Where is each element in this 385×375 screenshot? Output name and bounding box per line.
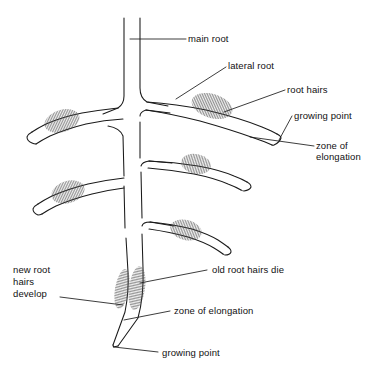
root-drawing bbox=[0, 0, 385, 375]
label-zone-of-elongation-bottom: zone of elongation bbox=[174, 305, 253, 317]
leader-growing-point-top bbox=[279, 116, 292, 140]
label-new-root-hairs-line2: hairs bbox=[13, 276, 34, 288]
label-root-hairs: root hairs bbox=[287, 84, 328, 96]
label-zone-of-elongation-top-line2: elongation bbox=[316, 151, 361, 163]
root-diagram: main root lateral root root hairs growin… bbox=[0, 0, 385, 375]
label-new-root-hairs-line3: develop bbox=[13, 288, 47, 300]
leader-root-hairs bbox=[224, 90, 285, 112]
label-zone-of-elongation-top-line1: zone of bbox=[316, 140, 348, 152]
leader-zone-elongation-top bbox=[250, 137, 314, 146]
label-new-root-hairs-line1: new root bbox=[13, 264, 50, 276]
leader-old-root-hairs bbox=[140, 270, 207, 283]
root-hair-clusters bbox=[41, 88, 235, 311]
leader-new-root-hairs bbox=[60, 297, 123, 305]
label-old-root-hairs-die: old root hairs die bbox=[212, 264, 284, 276]
leader-zone-elongation-bottom bbox=[124, 311, 170, 320]
leader-growing-point-bottom bbox=[114, 347, 158, 352]
label-main-root: main root bbox=[188, 33, 229, 45]
label-growing-point-bottom: growing point bbox=[162, 347, 220, 359]
label-lateral-root: lateral root bbox=[228, 60, 274, 72]
label-growing-point-top: growing point bbox=[294, 110, 352, 122]
